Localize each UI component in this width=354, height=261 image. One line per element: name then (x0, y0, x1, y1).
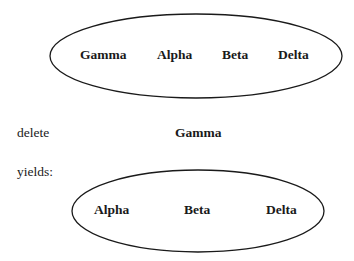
set-before-item: Gamma (80, 47, 127, 63)
set-before-item: Alpha (157, 47, 192, 63)
operation-operand: Gamma (175, 125, 222, 141)
set-after-item: Delta (266, 202, 297, 218)
set-before-item: Beta (222, 47, 248, 63)
set-after-item: Beta (184, 202, 210, 218)
operation-verb: delete (17, 125, 49, 141)
result-label: yields: (17, 164, 53, 180)
set-after-item: Alpha (94, 202, 129, 218)
set-before-item: Delta (278, 47, 309, 63)
